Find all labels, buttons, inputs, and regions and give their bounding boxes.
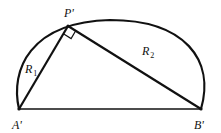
point-a: [17, 107, 20, 110]
label-b: B': [194, 118, 204, 132]
label-p: P': [63, 6, 74, 20]
geometry-diagram: P' A' B' R1 R2: [0, 0, 221, 133]
label-r1: R1: [24, 62, 37, 78]
label-a: A': [11, 118, 22, 132]
point-b: [199, 107, 202, 110]
point-p: [66, 24, 69, 27]
label-r2: R2: [141, 44, 154, 60]
